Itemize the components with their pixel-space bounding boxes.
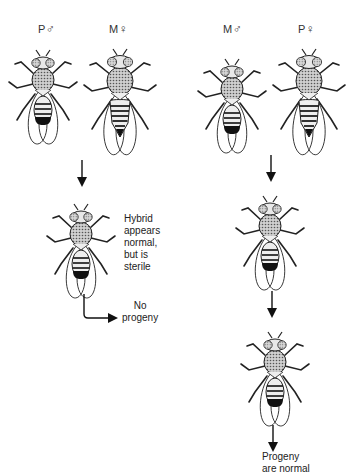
- strain-label: P: [38, 23, 46, 35]
- strain-label: M: [223, 23, 233, 35]
- hybrid-sterile-note: Hybrid appears normal, but is sterile: [124, 213, 160, 273]
- arrow-down-icon: [267, 291, 277, 319]
- note-line: No: [122, 300, 158, 312]
- right-male-parent-label: M♂: [223, 22, 242, 36]
- arrow-down-icon: [268, 425, 278, 453]
- arrow-down-icon: [77, 160, 87, 188]
- left-male-parent-label: P♂: [38, 22, 55, 36]
- strain-label: M: [109, 23, 119, 35]
- male-symbol-icon: ♂: [46, 22, 56, 36]
- note-line: but is: [124, 249, 160, 261]
- note-line: Progeny: [262, 451, 310, 463]
- offspring-fly-icon: [234, 190, 306, 294]
- hybrid-sterile-fly-icon: [45, 198, 117, 302]
- right-female-parent-fly-icon: [271, 43, 347, 161]
- left-male-parent-fly-icon: [7, 44, 79, 148]
- arrow-bent-right-icon: [80, 294, 120, 324]
- right-female-parent-label: P♀: [298, 22, 315, 36]
- note-line: Hybrid: [124, 213, 160, 225]
- note-line: appears: [124, 225, 160, 237]
- note-line: are normal: [262, 463, 310, 475]
- male-symbol-icon: ♂: [233, 22, 243, 36]
- second-generation-fly-icon: [239, 326, 311, 430]
- note-line: progeny: [122, 312, 158, 324]
- left-female-parent-fly-icon: [82, 43, 158, 161]
- female-symbol-icon: ♀: [306, 22, 316, 36]
- right-male-parent-fly-icon: [196, 53, 268, 157]
- female-symbol-icon: ♀: [119, 22, 129, 36]
- note-line: sterile: [124, 261, 160, 273]
- left-female-parent-label: M♀: [109, 22, 128, 36]
- no-progeny-note: No progeny: [122, 300, 158, 324]
- arrow-down-icon: [266, 155, 276, 183]
- strain-label: P: [298, 23, 306, 35]
- note-line: normal,: [124, 237, 160, 249]
- progeny-normal-note: Progeny are normal: [262, 451, 310, 475]
